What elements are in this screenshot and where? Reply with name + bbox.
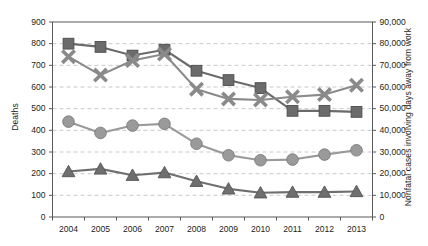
y-axis-tick-label: 600 bbox=[16, 82, 46, 92]
plot-area bbox=[0, 0, 428, 246]
chart-container: Deaths Nonfatal cases involving days awa… bbox=[0, 0, 428, 246]
y-axis-tick-label: 800 bbox=[16, 38, 46, 48]
y2-axis-tick-label: 80,000 bbox=[380, 38, 426, 48]
y2-axis-tick-label: 0 bbox=[380, 212, 426, 222]
series-x bbox=[62, 48, 362, 106]
series-triangle bbox=[62, 163, 363, 198]
series-circle bbox=[63, 116, 363, 166]
y2-axis-tick-label: 20,000 bbox=[380, 168, 426, 178]
y2-axis-tick-label: 90,000 bbox=[380, 17, 426, 27]
y2-axis-tick-label: 70,000 bbox=[380, 60, 426, 70]
y2-axis-tick-label: 60,000 bbox=[380, 82, 426, 92]
y2-axis-tick-label: 40,000 bbox=[380, 125, 426, 135]
y2-axis-tick-label: 30,000 bbox=[380, 147, 426, 157]
y-axis-tick-label: 500 bbox=[16, 103, 46, 113]
y-axis-tick-label: 300 bbox=[16, 147, 46, 157]
series-square bbox=[63, 38, 362, 117]
y-axis-tick-label: 900 bbox=[16, 17, 46, 27]
y-axis-tick-label: 0 bbox=[16, 212, 46, 222]
y-axis-tick-label: 100 bbox=[16, 190, 46, 200]
y2-axis-tick-label: 50,000 bbox=[380, 103, 426, 113]
x-axis-tick-label: 2013 bbox=[337, 224, 377, 234]
y-axis-tick-label: 700 bbox=[16, 60, 46, 70]
y-axis-tick-label: 200 bbox=[16, 168, 46, 178]
y-axis-tick-label: 400 bbox=[16, 125, 46, 135]
y2-axis-tick-label: 10,000 bbox=[380, 190, 426, 200]
